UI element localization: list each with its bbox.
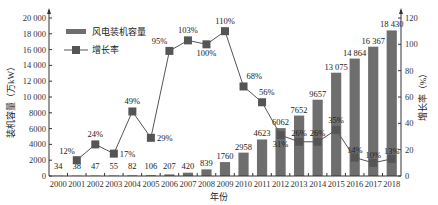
legend-bar-swatch (66, 29, 86, 34)
growth-rate-label: 13% (384, 146, 400, 156)
capacity-value-label: 420 (182, 161, 195, 171)
growth-square-marker-icon (184, 36, 192, 44)
growth-rate-label: 14% (347, 145, 363, 155)
right-tick-label: 40 (405, 118, 414, 128)
growth-rate-label: 110% (215, 16, 235, 26)
right-tick-label: 0 (405, 171, 409, 181)
right-axis-title: 增长率（%） (417, 69, 428, 122)
growth-rate-label: 95% (152, 36, 168, 46)
x-tick-label: 2012 (272, 179, 289, 189)
growth-square-marker-icon (91, 140, 99, 148)
capacity-value-label: 16 367 (362, 36, 385, 46)
capacity-value-label: 47 (91, 161, 100, 171)
x-tick-label: 2002 (87, 179, 104, 189)
growth-rate-label: 31% (273, 139, 289, 149)
capacity-value-label: 34 (54, 161, 63, 171)
left-axis-title: 装机容量（万kW） (5, 62, 16, 138)
legend: 风电装机容量 增长率 (64, 26, 146, 55)
right-tick-label: 20 (405, 145, 414, 155)
x-tick-label: 2003 (105, 179, 122, 189)
growth-rate-label: 10% (365, 150, 381, 160)
growth-rate-label: 12% (59, 146, 75, 156)
growth-rate-label: 49% (125, 96, 141, 106)
right-tick-label: 80 (405, 66, 414, 76)
growth-square-marker-icon (314, 138, 322, 146)
x-tick-label: 2000 (50, 179, 67, 189)
x-tick-label: 2015 (328, 179, 345, 189)
x-tick-label: 2018 (383, 179, 400, 189)
left-tick-label: 6000 (29, 124, 46, 134)
x-tick-label: 2001 (68, 179, 85, 189)
x-axis-title: 年份 (210, 191, 228, 202)
growth-square-marker-icon (165, 47, 173, 55)
x-tick-label: 2005 (142, 179, 159, 189)
capacity-value-label: 82 (128, 161, 137, 171)
growth-square-marker-icon (110, 150, 118, 158)
capacity-bar (294, 116, 304, 176)
growth-square-marker-icon (332, 126, 340, 134)
right-axis-arrow-icon (399, 8, 403, 14)
capacity-value-label: 106 (145, 161, 158, 171)
left-tick-label: 0 (42, 171, 46, 181)
x-tick-label: 2007 (179, 179, 196, 189)
wind-capacity-chart: 3438475582106207420839176029584623606276… (0, 0, 438, 205)
x-tick-label: 2014 (309, 179, 327, 189)
capacity-bar (201, 169, 211, 176)
x-tick-label: 2016 (346, 179, 363, 189)
capacity-value-label: 9657 (309, 89, 326, 99)
x-tick-label: 2010 (235, 179, 252, 189)
left-tick-label: 20 000 (23, 13, 46, 23)
capacity-bar (257, 139, 267, 176)
growth-square-marker-icon (128, 107, 136, 115)
growth-square-marker-icon (202, 40, 210, 48)
growth-square-marker-icon (240, 82, 248, 90)
growth-rate-labels: 12%24%17%49%29%95%103%100%110%68%56%31%2… (59, 16, 399, 160)
left-tick-label: 18 000 (23, 29, 46, 39)
left-tick-label: 12 000 (23, 76, 46, 86)
left-tick-label: 10 000 (23, 92, 46, 102)
growth-square-marker-icon (295, 138, 303, 146)
growth-square-marker-icon (388, 155, 396, 163)
growth-square-marker-icon (73, 156, 81, 164)
left-axis-arrow-icon (47, 8, 51, 14)
capacity-value-label: 4623 (254, 128, 271, 138)
growth-square-marker-icon (277, 131, 285, 139)
growth-rate-label: 29% (157, 133, 173, 143)
capacity-value-label: 1760 (217, 151, 234, 161)
growth-rate-label: 26% (291, 128, 307, 138)
growth-rate-label: 100% (197, 48, 217, 58)
x-tick-label: 2011 (254, 179, 271, 189)
capacity-value-label: 2958 (235, 142, 252, 152)
x-tick-label: 2006 (161, 179, 178, 189)
capacity-value-label: 7652 (291, 105, 308, 115)
growth-rate-label: 17% (120, 149, 136, 159)
capacity-value-label: 18 430 (380, 19, 403, 29)
right-tick-label: 60 (405, 92, 414, 102)
right-tick-label: 120 (405, 13, 418, 23)
capacity-value-label: 14 864 (343, 48, 367, 58)
capacity-value-label: 13 075 (324, 62, 347, 72)
right-tick-label: 100 (405, 39, 418, 49)
growth-square-marker-icon (369, 159, 377, 167)
left-tick-label: 2000 (29, 155, 46, 165)
capacity-bar (220, 162, 230, 176)
growth-rate-label: 68% (247, 71, 263, 81)
growth-rate-label: 24% (88, 129, 104, 139)
left-tick-label: 14 000 (23, 60, 46, 70)
x-tick-label: 2017 (365, 179, 382, 189)
x-tick-label: 2004 (124, 179, 142, 189)
capacity-bar (238, 153, 248, 176)
x-tick-label: 2009 (217, 179, 234, 189)
growth-square-marker-icon (147, 134, 155, 142)
growth-square-marker-icon (351, 154, 359, 162)
growth-rate-label: 56% (259, 87, 275, 97)
legend-square-marker-icon (72, 46, 80, 54)
growth-square-marker-icon (221, 27, 229, 35)
left-tick-label: 4000 (29, 139, 46, 149)
x-tick-label: 2008 (198, 179, 215, 189)
capacity-value-label: 207 (163, 161, 176, 171)
capacity-value-label: 55 (110, 161, 119, 171)
legend-bar-label: 风电装机容量 (92, 26, 146, 37)
left-tick-label: 8000 (29, 108, 46, 118)
x-tick-label: 2013 (291, 179, 308, 189)
